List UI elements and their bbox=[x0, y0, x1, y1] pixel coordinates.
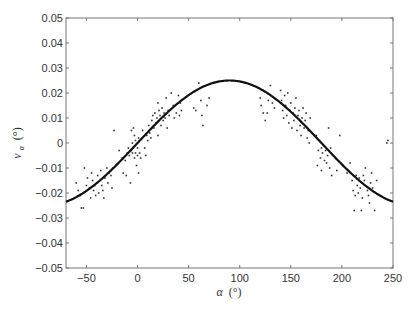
scatter-point bbox=[130, 182, 132, 184]
scatter-point bbox=[325, 150, 327, 152]
y-tick-label: −0.05 bbox=[35, 262, 63, 274]
scatter-point bbox=[264, 120, 266, 122]
y-axis-title: v α (°) bbox=[10, 127, 27, 158]
scatter-point bbox=[336, 170, 338, 172]
scatter-point bbox=[122, 172, 124, 174]
y-axis-subscript: α bbox=[17, 145, 26, 150]
scatter-point bbox=[300, 135, 302, 137]
y-tick-label: −0.03 bbox=[35, 212, 63, 224]
x-tick-label: 100 bbox=[231, 272, 249, 284]
scatter-point bbox=[174, 117, 176, 119]
scatter-point bbox=[133, 127, 135, 129]
scatter-point bbox=[302, 107, 304, 109]
scatter-point bbox=[360, 187, 362, 189]
scatter-point bbox=[137, 155, 139, 157]
scatter-point bbox=[181, 110, 183, 112]
scatter-point bbox=[365, 167, 367, 169]
scatter-point bbox=[91, 172, 93, 174]
scatter-point bbox=[329, 167, 331, 169]
scatter-point bbox=[280, 90, 282, 92]
scatter-point bbox=[87, 177, 89, 179]
scatter-point bbox=[113, 130, 115, 132]
scatter-point bbox=[124, 160, 126, 162]
scatter-point bbox=[77, 190, 79, 192]
scatter-point bbox=[101, 185, 103, 187]
y-tick-label: 0.01 bbox=[42, 112, 63, 124]
scatter-point bbox=[134, 157, 136, 159]
scatter-point bbox=[165, 97, 167, 99]
scatter-point bbox=[151, 120, 153, 122]
scatter-point bbox=[299, 125, 301, 127]
fit-curve-line bbox=[66, 81, 393, 202]
scatter-point bbox=[134, 135, 136, 137]
scatter-point bbox=[298, 110, 300, 112]
x-axis-unit: (°) bbox=[229, 285, 242, 299]
scatter-point bbox=[368, 195, 370, 197]
scatter-point bbox=[110, 175, 112, 177]
scatter-point bbox=[351, 180, 353, 182]
scatter-point bbox=[208, 97, 210, 99]
scatter-point bbox=[304, 120, 306, 122]
scatter-point bbox=[327, 155, 329, 157]
scatter-point bbox=[321, 170, 323, 172]
y-tick-label: 0.03 bbox=[42, 62, 63, 74]
scatter-point bbox=[283, 117, 285, 119]
scatter-point bbox=[168, 115, 170, 117]
scatter-point bbox=[322, 152, 324, 154]
scatter-point bbox=[361, 210, 363, 212]
scatter-point bbox=[291, 127, 293, 129]
x-tick-label: 150 bbox=[282, 272, 300, 284]
y-axis-unit: (°) bbox=[10, 127, 24, 140]
scatter-point bbox=[139, 152, 141, 154]
scatter-point bbox=[81, 207, 83, 209]
scatter-point bbox=[346, 172, 348, 174]
scatter-point bbox=[156, 117, 158, 119]
scatter-point bbox=[301, 117, 303, 119]
scatter-point bbox=[308, 142, 310, 144]
chart: −50050100150200250 0.050.040.030.020.010… bbox=[0, 0, 419, 312]
scatter-point bbox=[176, 112, 178, 114]
scatter-point bbox=[200, 100, 202, 102]
scatter-point bbox=[140, 157, 142, 159]
scatter-point bbox=[100, 170, 102, 172]
scatter-point bbox=[294, 107, 296, 109]
scatter-point bbox=[320, 157, 322, 159]
scatter-point bbox=[160, 125, 162, 127]
scatter-point bbox=[330, 147, 332, 149]
scatter-point bbox=[138, 137, 140, 139]
scatter-point bbox=[274, 107, 276, 109]
scatter-point bbox=[270, 85, 272, 87]
scatter-point bbox=[356, 185, 358, 187]
scatter-point bbox=[367, 190, 369, 192]
scatter-point bbox=[290, 102, 292, 104]
scatter-point bbox=[145, 155, 147, 157]
scatter-point bbox=[206, 105, 208, 107]
scatter-point bbox=[83, 207, 85, 209]
scatter-point bbox=[131, 130, 133, 132]
scatter-point bbox=[286, 115, 288, 117]
scatter-point bbox=[321, 147, 323, 149]
scatter-point bbox=[148, 125, 150, 127]
scatter-point bbox=[363, 175, 365, 177]
scatter-point bbox=[162, 120, 164, 122]
scatter-point bbox=[317, 165, 319, 167]
scatter-point bbox=[201, 115, 203, 117]
y-tick-label: −0.04 bbox=[35, 237, 63, 249]
scatter-point bbox=[135, 140, 137, 142]
scatter-point bbox=[75, 182, 77, 184]
x-tick-label: 250 bbox=[384, 272, 402, 284]
scatter-point bbox=[364, 180, 366, 182]
scatter-point bbox=[374, 210, 376, 212]
scatter-point bbox=[267, 112, 269, 114]
scatter-point bbox=[353, 210, 355, 212]
scatter-point bbox=[132, 142, 134, 144]
scatter-point bbox=[86, 185, 88, 187]
scatter-point bbox=[137, 147, 139, 149]
scatter-point bbox=[288, 122, 290, 124]
y-axis-ticks: 0.050.040.030.020.010−0.01−0.02−0.03−0.0… bbox=[35, 12, 393, 274]
scatter-point bbox=[106, 167, 108, 169]
scatter-point bbox=[161, 107, 163, 109]
scatter-point bbox=[309, 117, 311, 119]
scatter-point bbox=[281, 100, 283, 102]
x-axis-ticks: −50050100150200250 bbox=[77, 18, 402, 284]
